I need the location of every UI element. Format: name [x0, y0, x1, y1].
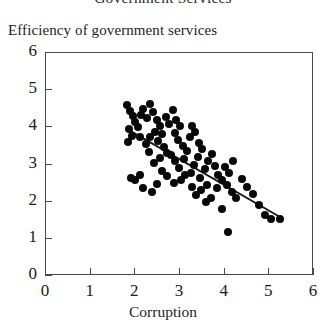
- x-tick-label-2: 2: [121, 281, 147, 301]
- x-tick-label-4: 4: [211, 281, 237, 301]
- y-tick-label-6: 6: [5, 41, 37, 61]
- y-tick-2: [45, 201, 52, 202]
- x-tick-label-5: 5: [255, 281, 281, 301]
- y-tick-3: [45, 164, 52, 165]
- y-tick-label-1: 1: [5, 227, 37, 247]
- y-tick-5: [45, 89, 52, 90]
- y-tick-6: [45, 52, 52, 53]
- x-tick-label-1: 1: [77, 281, 103, 301]
- y-axis-title: Efficiency of government services: [8, 22, 217, 39]
- x-tick-4: [224, 268, 225, 275]
- x-tick-3: [179, 268, 180, 275]
- y-tick-label-3: 3: [5, 153, 37, 173]
- x-tick-1: [90, 268, 91, 275]
- y-tick-label-5: 5: [5, 78, 37, 98]
- x-tick-6: [313, 268, 314, 275]
- y-tick-0: [45, 275, 52, 276]
- y-tick-label-4: 4: [5, 115, 37, 135]
- x-tick-5: [268, 268, 269, 275]
- x-tick-label-3: 3: [166, 281, 192, 301]
- chart-figure: Government Services Efficiency of govern…: [0, 0, 326, 330]
- y-tick-1: [45, 238, 52, 239]
- x-tick-label-0: 0: [32, 281, 58, 301]
- x-tick-0: [45, 268, 46, 275]
- x-axis-title: Corruption: [0, 303, 326, 321]
- x-tick-label-6: 6: [300, 281, 326, 301]
- y-tick-4: [45, 126, 52, 127]
- x-tick-2: [134, 268, 135, 275]
- y-tick-label-2: 2: [5, 190, 37, 210]
- figure-title: Government Services: [0, 0, 326, 7]
- plot-frame: [45, 52, 313, 275]
